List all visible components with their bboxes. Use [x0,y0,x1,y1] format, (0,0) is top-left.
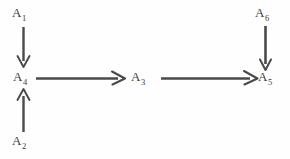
node-a5-base: A [258,69,267,84]
node-a6-base: A [255,5,264,20]
node-a2-base: A [12,133,21,148]
node-a6-subscript: 6 [265,13,269,23]
arrow-a2-to-a4 [18,89,30,132]
node-label-a5: A5 [258,70,272,83]
arrow-a4-to-a3 [36,72,125,85]
node-label-a2: A2 [12,134,26,147]
node-a4-base: A [13,69,22,84]
node-a2-subscript: 2 [22,141,26,151]
arrow-a3-to-a5 [161,71,258,85]
node-a3-subscript: 3 [141,77,145,87]
arrow-a6-to-a5 [260,26,271,70]
node-a4-subscript: 4 [23,77,27,87]
node-a1-base: A [12,5,21,20]
node-a1-subscript: 1 [22,13,26,23]
node-label-a3: A3 [131,70,145,83]
node-label-a1: A1 [12,6,26,19]
diagram-arrows-layer [0,0,290,159]
node-a3-base: A [131,69,140,84]
node-a5-subscript: 5 [268,77,272,87]
node-label-a6: A6 [255,6,269,19]
diagram-canvas: A1 A4 A2 A3 A6 A5 [0,0,290,159]
arrow-a1-to-a4 [18,27,30,67]
node-label-a4: A4 [13,70,27,83]
